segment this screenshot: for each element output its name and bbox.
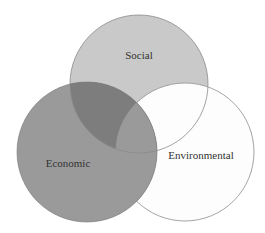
- environmental-label: Environmental: [168, 149, 233, 161]
- venn-diagram: Social Environmental Economic: [0, 0, 265, 233]
- social-label: Social: [125, 49, 153, 61]
- economic-label: Economic: [46, 157, 91, 169]
